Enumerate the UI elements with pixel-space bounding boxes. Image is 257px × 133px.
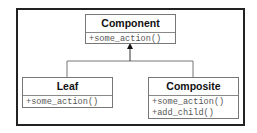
class-operations: +some_action() +add_child() xyxy=(149,96,238,118)
class-leaf: Leaf +some_action() xyxy=(22,77,113,108)
operation: +some_action() xyxy=(152,97,236,108)
class-name: Composite xyxy=(149,78,238,96)
class-composite: Composite +some_action() +add_child() xyxy=(148,77,239,119)
class-name: Component xyxy=(86,15,175,33)
operation: +some_action() xyxy=(89,34,173,45)
operation: +some_action() xyxy=(26,97,110,108)
operation: +add_child() xyxy=(152,108,236,119)
class-operations: +some_action() xyxy=(23,96,112,108)
class-component: Component +some_action() xyxy=(85,14,176,44)
class-operations: +some_action() xyxy=(86,33,175,45)
class-name: Leaf xyxy=(23,78,112,96)
